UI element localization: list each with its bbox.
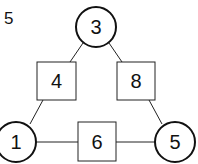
circle-bottom-right-value: 5: [169, 131, 180, 153]
box-left-value: 4: [51, 70, 62, 92]
box-left: 4: [37, 62, 76, 100]
edge-top-to-left-box: [70, 43, 83, 62]
circle-bottom-left-value: 1: [10, 131, 21, 153]
circle-top: 3: [76, 7, 116, 47]
circle-bottom-left: 1: [0, 122, 36, 162]
box-right: 8: [117, 62, 155, 100]
problem-number: 5: [4, 9, 13, 28]
edge-top-to-right-box: [109, 43, 122, 62]
box-right-value: 8: [130, 70, 141, 92]
circle-top-value: 3: [90, 16, 101, 38]
box-bottom: 6: [78, 122, 116, 161]
edge-right-box-to-bottom-right: [149, 100, 162, 124]
edge-left-box-to-bottom-left: [30, 100, 43, 124]
box-bottom-value: 6: [91, 131, 102, 153]
triangle-puzzle-diagram: 5 3 1 5 4 8 6: [0, 0, 198, 164]
circle-bottom-right: 5: [155, 122, 195, 162]
